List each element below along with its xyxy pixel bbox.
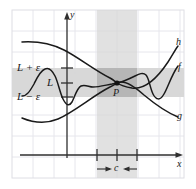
squeeze-theorem-figure: L + ε L L − ε y x h f g P c: [0, 0, 196, 189]
x-axis-label: x: [177, 159, 181, 169]
y-tick-label-l: L: [47, 77, 53, 88]
curve-label-g: g: [177, 111, 182, 121]
point-p-label: P: [113, 88, 119, 98]
interval-c-label: c: [114, 163, 118, 173]
y-tick-label-l-minus-epsilon: L − ε: [17, 91, 40, 102]
curve-label-h: h: [176, 37, 181, 47]
point-p-marker: [114, 80, 119, 85]
y-axis-label: y: [70, 10, 74, 20]
y-tick-label-l-plus-epsilon: L + ε: [17, 62, 40, 73]
curve-label-f: f: [178, 62, 181, 72]
